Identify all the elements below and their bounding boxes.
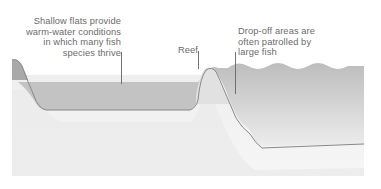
label-shallow-flats: Shallow flats provide warm-water conditi… [26,16,121,58]
label-drop-off: Drop-off areas are often patrolled by la… [238,26,315,58]
leader-shallow-flats [121,52,122,84]
leader-reef [198,51,199,69]
label-reef: Reef [176,45,198,56]
shallow-water [18,78,202,110]
leader-drop-off [235,52,236,94]
